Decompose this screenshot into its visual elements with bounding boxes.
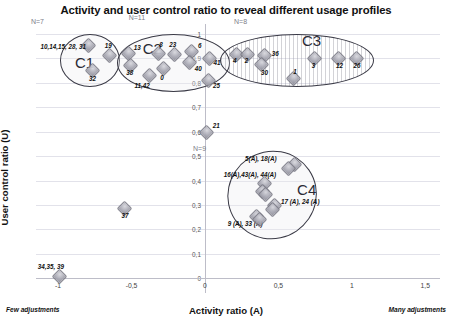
data-point-label: 6	[198, 42, 202, 49]
cluster-count-c1: N=7	[31, 18, 44, 25]
data-point-label: 30	[261, 69, 268, 76]
y-axis-tick-label: 0,6	[179, 128, 201, 135]
cluster-label-c3: C3	[302, 32, 321, 49]
gridline	[36, 132, 440, 133]
cluster-count-c2: N=11	[129, 14, 145, 21]
data-point-label: 12	[336, 62, 343, 69]
data-point-label: 16(A),43(A), 44(A)	[224, 171, 276, 178]
y-axis-tick-label: 0,4	[179, 177, 201, 184]
data-point-label: 19	[105, 42, 112, 49]
data-point-label: 2	[245, 57, 249, 64]
x-axis-tick-label: -0,5	[111, 282, 151, 289]
chart-title: Activity and user control ratio to revea…	[0, 4, 452, 16]
data-point-label: 11,42	[134, 82, 149, 89]
y-axis-tick-label: 0,1	[179, 250, 201, 257]
data-point-label: 8	[159, 41, 163, 48]
data-point-label: 4	[233, 57, 237, 64]
data-point-label: 34,35, 39	[38, 263, 64, 270]
cluster-count-c4: N=9	[193, 145, 206, 152]
data-point-label: 37	[121, 212, 128, 219]
data-point-label: 36	[272, 50, 279, 57]
y-axis-tick-label: 0,5	[179, 153, 201, 160]
data-point-label: 23	[169, 41, 176, 48]
data-point-label: 25	[213, 82, 220, 89]
x-axis-line	[36, 278, 440, 279]
y-axis-tick-label: 0,3	[179, 201, 201, 208]
data-point-label: 26	[354, 62, 361, 69]
gridline	[36, 156, 440, 157]
gridline	[36, 107, 440, 108]
y-axis-tick-label: 0,2	[179, 226, 201, 233]
x-axis-note-low: Few adjustments	[6, 306, 60, 313]
y-axis-tick-label: 0,7	[179, 104, 201, 111]
data-point-label: 5(A), 18(A)	[245, 155, 277, 162]
cluster-label-c4: C4	[297, 181, 316, 198]
gridline	[36, 229, 440, 230]
cluster-count-c3: N=8	[234, 18, 247, 25]
data-point-label: 3	[312, 62, 316, 69]
data-point-label: 13	[134, 44, 141, 51]
x-axis-tick-label: 1	[332, 282, 372, 289]
x-axis-note-high: Many adjustments	[388, 306, 446, 313]
data-point-label: 1	[293, 68, 297, 75]
x-axis-tick-label: 1,5	[405, 282, 445, 289]
chart-root: Activity and user control ratio to revea…	[0, 0, 452, 325]
data-point-label: 38	[126, 69, 133, 76]
x-axis-tick-label: 0,5	[258, 282, 298, 289]
x-axis-tick-label: 0	[185, 282, 225, 289]
data-point-label: 41	[214, 59, 221, 66]
data-point-label: 17 (A), 24 (A)	[281, 198, 320, 205]
gridline	[36, 254, 440, 255]
y-axis-title: User control ratio (U)	[0, 78, 10, 278]
data-point-label: 21	[213, 122, 220, 129]
plot-area: 00,10,20,30,40,50,60,70,80,91-1-0,500,51…	[36, 24, 440, 293]
data-point-label: 10,14,15, 28, 31	[40, 43, 86, 50]
x-axis-title: Activity ratio (A)	[0, 305, 452, 316]
data-point-label: 40	[195, 65, 202, 72]
data-point-label: 0	[160, 74, 164, 81]
data-point-label: 32	[89, 75, 96, 82]
